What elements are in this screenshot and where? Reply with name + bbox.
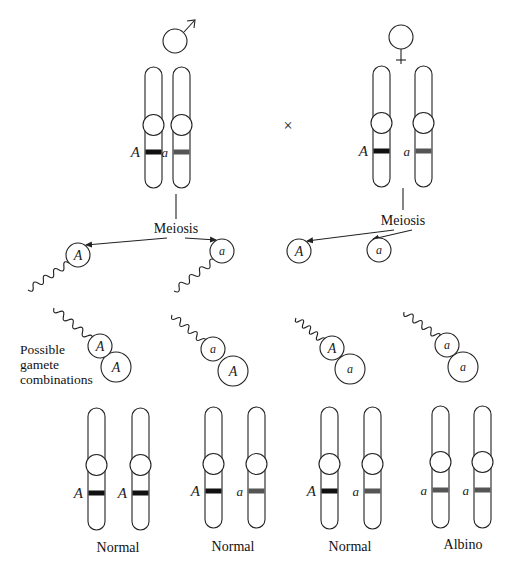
genetic-cross-diagram: × AaMeiosisAaAaMeiosisAa AAAANormalAaAaN… <box>0 0 511 574</box>
gene-locus-band <box>89 491 105 496</box>
sperm-tail <box>54 308 93 340</box>
centromere <box>472 452 493 473</box>
gamete-allele-label: a <box>210 342 216 356</box>
cross-symbol: × <box>283 117 292 134</box>
parents-group: AaMeiosisAaAaMeiosisAa <box>28 66 434 292</box>
female-symbol-icon <box>389 25 413 64</box>
gene-locus-band <box>374 149 390 154</box>
offspring-chromosome-1: A <box>73 408 107 530</box>
sperm: A <box>88 334 112 358</box>
offspring-chromosome-1: A <box>190 407 224 528</box>
combinations-group: AAAANormalAaAaNormalaAAaNormalaaaaAlbino <box>54 308 493 555</box>
gamete-allele-label: a <box>219 244 225 258</box>
offspring-chromosome-2: a <box>353 407 384 529</box>
phenotype-label: Normal <box>97 540 140 555</box>
allele-label: a <box>237 484 244 499</box>
gamete-allele-label: A <box>228 364 238 379</box>
gamete-1: A <box>66 243 90 267</box>
meiosis-label: Meiosis <box>381 213 425 228</box>
allele-label: a <box>421 483 428 498</box>
combinations-label-line-1: Possible <box>20 342 65 357</box>
centromere <box>362 454 383 475</box>
centromere <box>413 113 434 134</box>
allele-label: A <box>190 483 201 499</box>
gamete-allele-label: A <box>111 360 121 375</box>
gamete-allele-label: a <box>347 362 353 376</box>
gamete-allele-label: a <box>444 338 450 352</box>
chromosome-2: a <box>404 66 435 187</box>
egg: a <box>448 352 478 382</box>
sperm: a <box>201 337 225 361</box>
gene-locus-band <box>416 149 432 154</box>
gamete-2: a <box>367 238 391 262</box>
gene-locus-band <box>133 491 149 496</box>
egg: A <box>218 356 248 386</box>
centromere <box>143 115 164 136</box>
centromere <box>203 454 224 475</box>
allele-label: a <box>162 145 169 160</box>
sperm-tail <box>28 262 69 292</box>
gene-locus-band <box>365 489 381 494</box>
sperm-tail <box>171 315 205 343</box>
phenotype-label: Normal <box>329 539 372 554</box>
gamete-allele-label: A <box>73 248 83 263</box>
combination-3: aAAaNormal <box>295 318 383 554</box>
combinations-label: Possible gamete combinations <box>20 342 93 387</box>
sperm: A <box>320 336 344 360</box>
gene-locus-band <box>174 150 190 155</box>
sperm-tail <box>295 318 324 342</box>
offspring-chromosome-2: a <box>463 406 494 528</box>
chromosome-1: A <box>130 67 164 188</box>
arrow-to-gamete-1 <box>86 238 167 245</box>
male-symbol-icon <box>163 20 195 53</box>
combination-4: aaaaAlbino <box>404 312 493 552</box>
centromere <box>371 113 392 134</box>
gene-locus-band <box>249 489 265 494</box>
arrow-to-gamete-2 <box>185 238 216 240</box>
allele-label: a <box>404 144 411 159</box>
gene-locus-band <box>146 150 162 155</box>
phenotype-label: Albino <box>444 537 483 552</box>
phenotype-label: Normal <box>212 539 255 554</box>
gene-locus-band <box>206 489 222 494</box>
gene-locus-band <box>433 488 449 493</box>
centromere <box>171 115 192 136</box>
offspring-chromosome-1: A <box>306 407 340 529</box>
allele-label: A <box>73 485 84 501</box>
allele-label: a <box>463 483 470 498</box>
allele-label: A <box>358 143 369 159</box>
gamete-allele-label: A <box>294 244 304 259</box>
allele-label: A <box>117 485 128 501</box>
allele-label: A <box>130 144 141 160</box>
centromere <box>430 452 451 473</box>
egg: a <box>335 354 365 384</box>
parent-female: AaMeiosisAa <box>287 66 434 263</box>
combination-2: AaAaNormal <box>171 315 267 554</box>
allele-label: A <box>306 483 317 499</box>
centromere <box>319 454 340 475</box>
offspring-chromosome-2: A <box>117 408 151 530</box>
combinations-label-line-3: combinations <box>20 372 93 387</box>
gamete-allele-label: A <box>327 341 337 356</box>
sperm-tail <box>174 259 215 292</box>
offspring-chromosome-2: a <box>237 407 268 528</box>
gene-locus-band <box>322 489 338 494</box>
gamete-allele-label: A <box>95 339 105 354</box>
sperm: a <box>435 333 459 357</box>
chromosome-1: A <box>358 66 392 187</box>
centromere <box>86 455 107 476</box>
offspring-chromosome-1: a <box>421 406 452 528</box>
gamete-allele-label: a <box>460 360 466 374</box>
parent-male: AaMeiosisAa <box>28 67 234 292</box>
gamete-2: a <box>210 239 234 263</box>
meiosis-label: Meiosis <box>154 221 198 236</box>
sperm-tail <box>404 312 441 338</box>
combination-1: AAAANormal <box>54 308 151 555</box>
allele-label: a <box>353 484 360 499</box>
chromosome-2: a <box>162 67 193 188</box>
gene-locus-band <box>475 488 491 493</box>
gamete-1: A <box>287 239 311 263</box>
centromere <box>246 454 267 475</box>
combinations-label-line-2: gamete <box>20 357 59 372</box>
centromere <box>130 455 151 476</box>
